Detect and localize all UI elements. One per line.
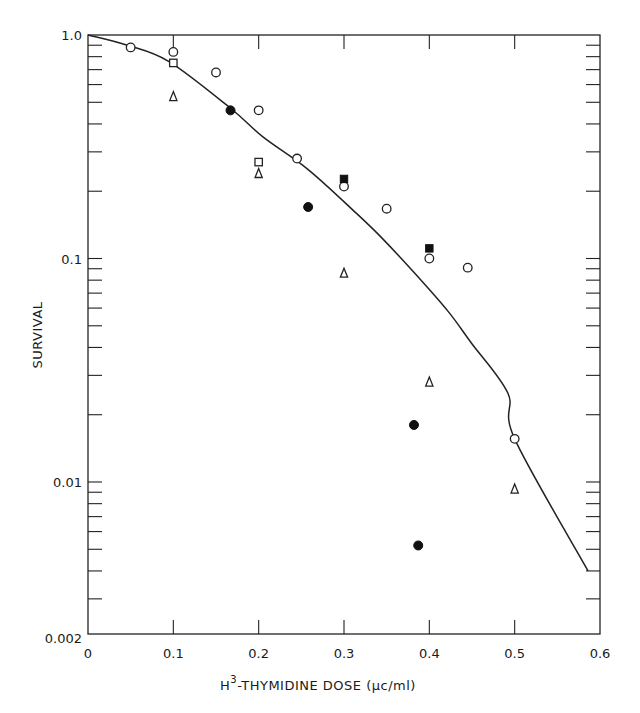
data-point-circle-open [340,182,349,191]
data-point-circle-open [126,43,135,52]
data-point-circle-open [212,68,221,77]
x-tick-label: 0.4 [419,646,440,661]
axis-ticks [88,35,600,634]
x-title-prefix: H [220,678,230,693]
x-title-superscript: 3 [230,674,237,685]
data-point-circle-filled [414,541,423,550]
plot-frame [88,35,600,634]
data-point-circle-open [293,154,302,163]
data-point-circle-open [382,204,391,213]
data-point-triangle-open [426,377,433,386]
y-tick-label: 1.0 [61,28,82,43]
data-point-circle-filled [304,202,313,211]
data-point-triangle-open [511,484,518,493]
data-point-square-filled [426,245,433,252]
x-title-suffix: -THYMIDINE DOSE (μc/ml) [237,678,416,693]
y-tick-label: 0.1 [61,252,82,267]
y-tick-label: 0.002 [45,631,82,646]
data-point-square-filled [340,175,347,182]
survival-chart: 00.10.20.30.40.50.61.00.10.010.002 SURVI… [0,0,640,713]
data-point-circle-open [425,254,434,263]
x-tick-label: 0.6 [590,646,611,661]
data-point-circle-filled [226,106,235,115]
data-point-square-open [255,158,262,165]
data-point-circle-open [169,48,178,57]
x-tick-label: 0.2 [248,646,269,661]
data-point-triangle-open [340,268,347,277]
data-point-circle-open [463,263,472,272]
data-points [126,43,519,550]
data-point-square-open [170,59,177,66]
data-point-circle-open [510,435,519,444]
x-tick-label: 0.5 [504,646,525,661]
data-point-triangle-open [170,92,177,101]
x-tick-label: 0.3 [334,646,355,661]
axes [88,35,600,634]
axis-tick-labels: 00.10.20.30.40.50.61.00.10.010.002 [45,28,611,661]
x-axis-title: H3-THYMIDINE DOSE (μc/ml) [220,674,416,693]
y-tick-label: 0.01 [53,475,82,490]
data-point-triangle-open [255,169,262,178]
x-tick-label: 0 [84,646,92,661]
data-point-circle-filled [409,420,418,429]
data-point-circle-open [254,106,263,115]
x-tick-label: 0.1 [163,646,184,661]
y-axis-title: SURVIVAL [30,301,45,368]
